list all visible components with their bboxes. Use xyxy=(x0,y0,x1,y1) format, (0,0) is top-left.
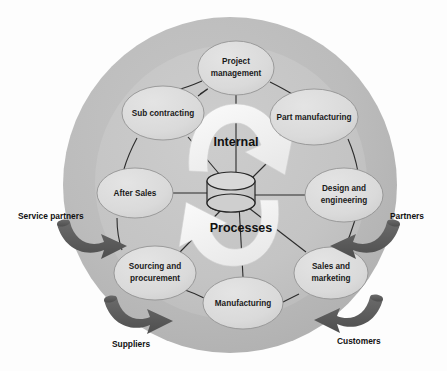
node-sourcing-and-procurement[interactable]: Sourcing and procurement xyxy=(114,246,196,300)
node-sourcing-and-procurement-label-line2: procurement xyxy=(130,274,180,283)
diagram-canvas: Internal Processes Project management Pa… xyxy=(0,0,447,371)
center-label-internal: Internal xyxy=(213,135,258,149)
external-label-service-partners: Service partners xyxy=(18,211,84,221)
node-manufacturing[interactable]: Manufacturing xyxy=(203,277,283,329)
node-manufacturing-label-line1: Manufacturing xyxy=(215,299,271,308)
node-sales-and-marketing[interactable]: Sales and marketing xyxy=(294,247,368,299)
node-design-and-engineering[interactable]: Design and engineering xyxy=(305,168,383,222)
external-label-suppliers: Suppliers xyxy=(112,339,151,349)
node-part-manufacturing-label-line1: Part manufacturing xyxy=(276,113,351,122)
node-sub-contracting-label-line1: Sub contracting xyxy=(132,109,194,118)
node-design-and-engineering-shape xyxy=(305,168,383,222)
node-sales-and-marketing-shape xyxy=(294,247,368,299)
node-after-sales-label-line1: After Sales xyxy=(114,189,157,198)
node-design-and-engineering-label-line1: Design and xyxy=(322,184,366,193)
node-sourcing-and-procurement-label-line1: Sourcing and xyxy=(129,262,181,271)
node-project-management[interactable]: Project management xyxy=(198,41,274,95)
node-part-manufacturing[interactable]: Part manufacturing xyxy=(270,89,358,145)
node-project-management-label-line1: Project xyxy=(222,57,250,66)
external-label-customers: Customers xyxy=(337,336,381,346)
process-wheel-diagram: Internal Processes Project management Pa… xyxy=(0,0,447,371)
node-sub-contracting[interactable]: Sub contracting xyxy=(122,86,204,140)
node-sales-and-marketing-label-line2: marketing xyxy=(311,274,350,283)
node-design-and-engineering-label-line2: engineering xyxy=(321,196,367,205)
node-sourcing-and-procurement-shape xyxy=(114,246,196,300)
node-sales-and-marketing-label-line1: Sales and xyxy=(312,262,350,271)
external-label-partners: Partners xyxy=(390,211,424,221)
center-label-processes: Processes xyxy=(210,221,273,235)
node-after-sales[interactable]: After Sales xyxy=(97,168,173,218)
node-project-management-label-line2: management xyxy=(211,69,262,78)
database-cylinder-icon xyxy=(207,172,255,212)
node-project-management-shape xyxy=(198,41,274,95)
